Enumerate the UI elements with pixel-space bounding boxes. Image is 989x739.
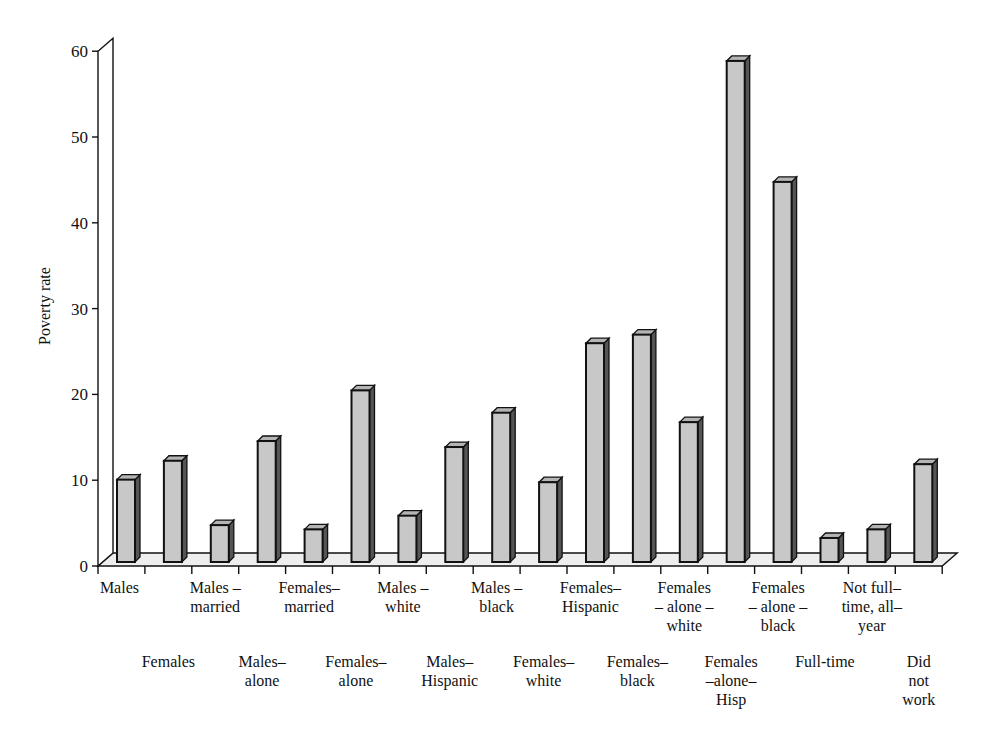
bar-front-face: [914, 464, 932, 562]
bar: [539, 477, 562, 562]
bar: [492, 408, 515, 562]
bar: [867, 524, 890, 562]
bar-front-face: [258, 441, 276, 562]
x-category-label: Not full– time, all– year: [842, 578, 902, 635]
x-category-label: Males – white: [377, 578, 428, 616]
x-category-label: Males– alone: [239, 652, 286, 690]
y-tick-label: 50: [71, 128, 88, 147]
bar: [305, 524, 328, 562]
x-category-label: Males – black: [471, 578, 522, 616]
x-category-label: Females– alone: [325, 652, 386, 690]
y-tick-label: 30: [71, 300, 88, 319]
bar: [398, 511, 421, 562]
x-axis: [98, 566, 942, 574]
y-axis-label: Poverty rate: [36, 267, 54, 345]
bar: [445, 442, 468, 562]
x-category-label: Full-time: [795, 652, 855, 671]
bar: [680, 417, 703, 562]
bar: [352, 385, 375, 562]
bar-series: [117, 56, 937, 562]
bar-front-face: [633, 335, 651, 562]
y-tick-label: 20: [71, 385, 88, 404]
bar-front-face: [680, 422, 698, 562]
x-category-label: Did not work: [902, 652, 935, 709]
bar-front-face: [727, 61, 745, 562]
x-category-label: Females– white: [513, 652, 574, 690]
x-category-label: Females – alone – white: [655, 578, 714, 635]
bar: [211, 520, 234, 562]
bar: [727, 56, 750, 562]
y-axis: 0102030405060: [71, 42, 98, 576]
bar: [164, 456, 187, 562]
bar: [258, 436, 281, 562]
bar-front-face: [492, 413, 510, 562]
bar-front-face: [305, 529, 323, 562]
x-category-label: Males– Hispanic: [421, 652, 478, 690]
chart-side-wall: [98, 38, 113, 566]
x-category-label: Females– married: [278, 578, 339, 616]
bar-front-face: [774, 182, 792, 562]
bar-front-face: [445, 447, 463, 562]
x-category-label: Males – married: [190, 578, 241, 616]
bar-front-face: [539, 482, 557, 562]
y-tick-label: 60: [71, 42, 88, 61]
x-category-label: Females– Hispanic: [560, 578, 621, 616]
bar-front-face: [821, 538, 839, 562]
bar: [586, 338, 609, 562]
bar-front-face: [398, 516, 416, 562]
bar-front-face: [211, 525, 229, 562]
x-category-label: Females – alone – black: [749, 578, 808, 635]
bar: [633, 330, 656, 562]
y-tick-label: 40: [71, 214, 88, 233]
bar-front-face: [586, 343, 604, 562]
bar-front-face: [352, 390, 370, 562]
bar-front-face: [117, 480, 135, 562]
y-tick-label: 0: [80, 557, 89, 576]
bar: [821, 533, 844, 562]
bar-front-face: [867, 529, 885, 562]
y-tick-label: 10: [71, 471, 88, 490]
x-category-label: Males: [100, 578, 139, 597]
bar: [914, 459, 937, 562]
chart-walls: [98, 38, 957, 566]
x-category-label: Females– black: [607, 652, 668, 690]
bar: [774, 177, 797, 562]
bar: [117, 475, 140, 562]
bar-front-face: [164, 461, 182, 562]
x-category-label: Females: [142, 652, 195, 671]
x-category-label: Females –alone– Hisp: [704, 652, 757, 709]
